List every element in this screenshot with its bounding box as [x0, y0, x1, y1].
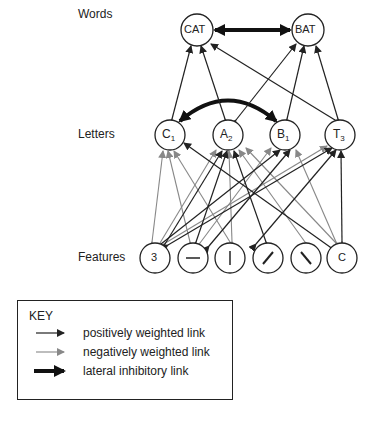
letter-t3-label: T3: [333, 127, 345, 143]
word-cat-label: CAT: [184, 23, 205, 35]
letter-c1-label: C1: [162, 127, 175, 143]
level-label-letters: Letters: [78, 127, 115, 141]
legend-positive-label: positively weighted link: [83, 326, 205, 340]
legend-title: KEY: [29, 309, 53, 323]
word-bat-label: BAT: [295, 23, 316, 35]
legend-lateral-label: lateral inhibitory link: [83, 364, 188, 378]
legend-negative-label: negatively weighted link: [83, 345, 210, 359]
letter-a2-label: A2: [220, 127, 232, 143]
feature-3-label: 3: [151, 251, 157, 263]
level-label-words: Words: [78, 7, 112, 21]
letter-b1-label: B1: [277, 127, 289, 143]
feature-c-label: C: [338, 251, 346, 263]
level-label-features: Features: [78, 250, 125, 264]
